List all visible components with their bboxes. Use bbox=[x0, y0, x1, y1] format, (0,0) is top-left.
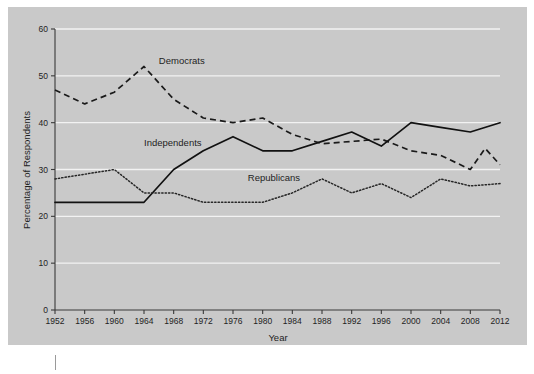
y-tick-label: 50 bbox=[39, 71, 49, 81]
figure-container: 0102030405060 19521956196019641968197219… bbox=[0, 0, 534, 374]
x-tick-label: 2008 bbox=[461, 316, 480, 326]
series-line-independents bbox=[55, 123, 500, 203]
x-tick-label: 2004 bbox=[431, 316, 450, 326]
y-axis-title: Percentage of Respondents bbox=[21, 111, 32, 229]
y-tick-label: 30 bbox=[39, 165, 49, 175]
x-tick-label: 1968 bbox=[164, 316, 183, 326]
x-axis-title: Year bbox=[268, 332, 287, 343]
line-chart: 0102030405060 19521956196019641968197219… bbox=[0, 0, 534, 374]
gridlines bbox=[55, 29, 500, 263]
series-label-republicans: Republicans bbox=[248, 172, 301, 183]
series-labels: DemocratsIndependentsRepublicans bbox=[144, 55, 300, 183]
y-tick-label: 10 bbox=[39, 258, 49, 268]
y-tick-label: 20 bbox=[39, 211, 49, 221]
x-tick-label: 1996 bbox=[372, 316, 391, 326]
x-tick-label: 1980 bbox=[253, 316, 272, 326]
x-tick-label: 1952 bbox=[46, 316, 65, 326]
x-axis: 1952195619601964196819721976198019841988… bbox=[46, 310, 510, 326]
series-label-independents: Independents bbox=[144, 137, 202, 148]
x-tick-label: 1960 bbox=[105, 316, 124, 326]
x-tick-label: 1984 bbox=[283, 316, 302, 326]
y-tick-label: 40 bbox=[39, 118, 49, 128]
x-tick-label: 1988 bbox=[313, 316, 332, 326]
x-tick-label: 2012 bbox=[491, 316, 510, 326]
series-line-democrats bbox=[55, 67, 500, 170]
series-label-democrats: Democrats bbox=[159, 55, 205, 66]
y-tick-label: 0 bbox=[43, 305, 48, 315]
x-tick-label: 1956 bbox=[75, 316, 94, 326]
x-tick-label: 1992 bbox=[342, 316, 361, 326]
x-tick-label: 1964 bbox=[135, 316, 154, 326]
x-axis-title-text: Year bbox=[268, 332, 287, 343]
x-tick-label: 1976 bbox=[224, 316, 243, 326]
y-axis: 0102030405060 bbox=[39, 24, 55, 315]
y-tick-label: 60 bbox=[39, 24, 49, 34]
x-tick-label: 2000 bbox=[402, 316, 421, 326]
y-axis-title-text: Percentage of Respondents bbox=[21, 111, 32, 229]
x-tick-label: 1972 bbox=[194, 316, 213, 326]
